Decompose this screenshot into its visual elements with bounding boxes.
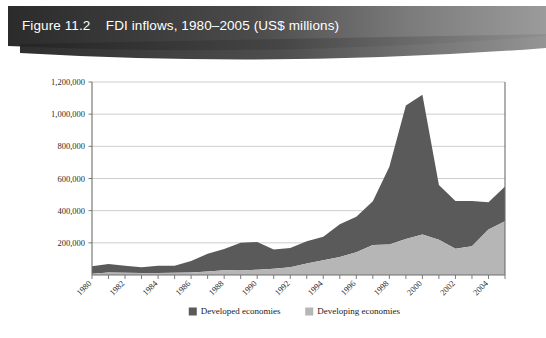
- chart-legend: Developed economiesDeveloping economies: [189, 306, 401, 316]
- x-tick-label: 2002: [438, 278, 457, 297]
- x-tick-label: 1982: [107, 278, 126, 297]
- header-swoosh-shape: [0, 6, 546, 62]
- x-tick-label: 1990: [240, 278, 259, 297]
- x-tickmarks-group: [92, 275, 505, 279]
- legend-label: Developed economies: [201, 306, 281, 316]
- y-tick-label: 600,000: [57, 174, 85, 184]
- y-tick-label: 1,200,000: [51, 77, 85, 87]
- x-tick-label: 1992: [273, 278, 292, 297]
- y-tick-label: 200,000: [57, 238, 85, 248]
- x-tick-label: 1984: [140, 278, 160, 298]
- x-tick-label: 2004: [471, 278, 491, 298]
- x-tick-label: 1988: [206, 278, 225, 297]
- x-tick-label: 1994: [306, 278, 326, 298]
- x-tick-label: 1996: [339, 278, 358, 297]
- y-tick-labels-group: 200,000400,000600,000800,0001,000,0001,2…: [51, 77, 85, 248]
- y-tick-label: 800,000: [57, 141, 85, 151]
- stacked-area-chart: 200,000400,000600,000800,0001,000,0001,2…: [0, 62, 546, 338]
- x-tick-label: 1998: [372, 278, 391, 297]
- legend-swatch: [305, 308, 313, 316]
- y-tick-label: 1,000,000: [51, 109, 85, 119]
- x-tick-labels-group: 1980198219841986198819901992199419961998…: [74, 278, 490, 298]
- legend-label: Developing economies: [317, 306, 400, 316]
- figure-title: Figure 11.2 FDI inflows, 1980–2005 (US$ …: [22, 18, 339, 33]
- x-tick-label: 2000: [405, 278, 424, 297]
- x-tick-label: 1980: [74, 278, 93, 297]
- chart-container: 200,000400,000600,000800,0001,000,0001,2…: [0, 62, 546, 338]
- y-tick-label: 400,000: [57, 206, 85, 216]
- legend-swatch: [189, 308, 197, 316]
- x-tick-label: 1986: [173, 278, 192, 297]
- figure-header-banner: Figure 11.2 FDI inflows, 1980–2005 (US$ …: [0, 6, 546, 62]
